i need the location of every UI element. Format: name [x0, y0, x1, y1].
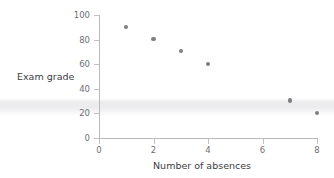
y-axis-line: [99, 15, 100, 139]
data-point: [179, 49, 183, 53]
y-tick-label-60: 60: [60, 60, 90, 69]
x-axis-title: Number of absences: [153, 160, 251, 171]
y-tick-label-20: 20: [60, 109, 90, 118]
x-tick-2: [154, 139, 155, 144]
y-tick-40: [94, 89, 99, 90]
x-tick-label-6: 6: [253, 146, 273, 155]
x-tick-0: [99, 139, 100, 144]
scatter-chart: 0 20 40 60 80 100 0 2 4 6 8 Exam grade N…: [0, 0, 334, 178]
y-tick-100: [94, 15, 99, 16]
y-tick-label-40: 40: [60, 85, 90, 94]
y-tick-label-80: 80: [60, 36, 90, 45]
y-tick-80: [94, 40, 99, 41]
y-axis-title: Exam grade: [17, 71, 74, 82]
y-tick-20: [94, 113, 99, 114]
y-tick-label-0: 0: [60, 134, 90, 143]
x-tick-label-4: 4: [198, 146, 218, 155]
x-tick-label-0: 0: [89, 146, 109, 155]
x-tick-label-2: 2: [144, 146, 164, 155]
data-point: [206, 62, 210, 66]
x-tick-label-8: 8: [307, 146, 327, 155]
x-tick-8: [317, 139, 318, 144]
y-tick-60: [94, 64, 99, 65]
data-point: [315, 111, 319, 115]
scan-artifact-band: [0, 98, 334, 116]
x-tick-4: [208, 139, 209, 144]
y-tick-label-100: 100: [60, 11, 90, 20]
data-point: [288, 98, 292, 102]
data-point: [151, 37, 155, 41]
data-point: [124, 25, 128, 29]
x-tick-6: [263, 139, 264, 144]
